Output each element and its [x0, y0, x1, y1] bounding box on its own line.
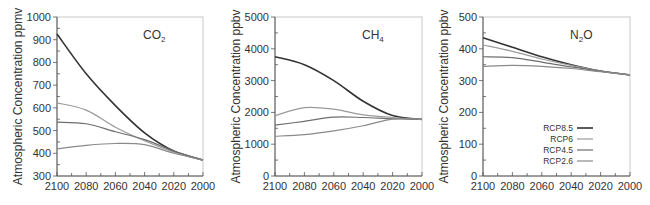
series-line-rcp6	[483, 45, 630, 75]
y-tick-label: 400	[459, 43, 477, 55]
y-tick-label: 600	[33, 102, 51, 114]
chart-panel-co2: 3004005006007008009001000210020802060204…	[11, 8, 215, 192]
x-tick-label: 2040	[132, 180, 156, 192]
chart-panel-ch4: 0100020003000400050002100208020602040202…	[229, 9, 434, 192]
y-axis-label: Atmospheric Concentration ppbv	[437, 9, 451, 183]
series-line-rcp6	[57, 103, 203, 160]
legend: RCP8.5RCP6RCP4.5RCP2.6	[543, 123, 593, 166]
legend-label: RCP6	[550, 134, 573, 144]
x-tick-label: 2040	[559, 180, 583, 192]
y-tick-label: 500	[33, 125, 51, 137]
y-tick-label: 2000	[245, 106, 269, 118]
series-line-rcp85	[57, 34, 203, 160]
rcp-concentration-charts: 3004005006007008009001000210020802060204…	[0, 0, 650, 205]
y-tick-label: 4000	[245, 43, 269, 55]
plot-frame	[275, 17, 422, 176]
x-tick-label: 2100	[471, 180, 495, 192]
y-tick-label: 700	[33, 79, 51, 91]
x-tick-label: 2020	[380, 180, 404, 192]
x-tick-label: 2020	[588, 180, 612, 192]
y-tick-label: 1000	[245, 138, 269, 150]
x-tick-label: 2040	[351, 180, 375, 192]
y-tick-label: 200	[459, 106, 477, 118]
y-axis-label: Atmospheric Concentration ppbv	[229, 9, 243, 183]
x-tick-label: 2060	[322, 180, 346, 192]
legend-label: RCP4.5	[543, 145, 573, 155]
x-tick-label: 2060	[530, 180, 554, 192]
y-tick-label: 5000	[245, 11, 269, 23]
y-tick-label: 1000	[27, 11, 51, 23]
x-tick-label: 2100	[45, 180, 69, 192]
chart-panel-n2o: 0100200300400500210020802060204020202000…	[437, 9, 642, 192]
y-tick-label: 300	[459, 75, 477, 87]
x-tick-label: 2080	[500, 180, 524, 192]
plot-frame	[57, 17, 203, 176]
legend-label: RCP8.5	[543, 123, 573, 133]
y-tick-label: 3000	[245, 75, 269, 87]
x-tick-label: 2000	[410, 180, 434, 192]
x-tick-label: 2000	[191, 180, 215, 192]
y-tick-label: 900	[33, 34, 51, 46]
panel-title: CH4	[362, 28, 384, 44]
x-tick-label: 2000	[618, 180, 642, 192]
x-tick-label: 2060	[103, 180, 127, 192]
y-tick-label: 500	[459, 11, 477, 23]
panel-title: N2O	[570, 28, 592, 44]
legend-label: RCP2.6	[543, 156, 573, 166]
series-line-rcp26	[483, 65, 630, 75]
x-tick-label: 2020	[162, 180, 186, 192]
y-axis-label: Atmospheric Concentration ppmv	[11, 8, 25, 185]
panel-title: CO2	[143, 28, 166, 44]
x-tick-label: 2100	[263, 180, 287, 192]
series-line-rcp26	[57, 143, 203, 160]
x-tick-label: 2080	[74, 180, 98, 192]
series-line-rcp85	[483, 38, 630, 75]
series-line-rcp85	[275, 57, 422, 120]
y-tick-label: 100	[459, 138, 477, 150]
series-line-rcp26	[275, 119, 422, 137]
x-tick-label: 2080	[292, 180, 316, 192]
y-tick-label: 400	[33, 147, 51, 159]
y-tick-label: 800	[33, 56, 51, 68]
